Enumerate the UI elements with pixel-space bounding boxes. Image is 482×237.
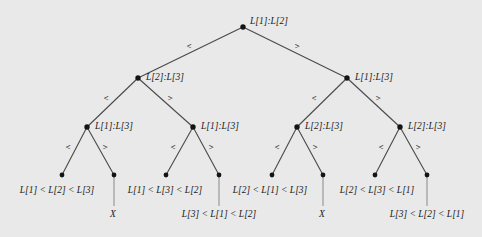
leaf-label-5: L[2] < L[1] < L[3] — [233, 186, 308, 196]
edge-label-n12-right: > — [208, 143, 213, 152]
internal-node-dot — [190, 124, 195, 129]
edge-label-n21-left: < — [274, 143, 279, 152]
leaf-node-dot — [373, 173, 378, 178]
edge-label-n12-left: < — [170, 143, 175, 152]
edge-label-l1-right: > — [167, 94, 172, 103]
tree-edge — [400, 127, 427, 175]
decision-tree-figure: L[1]:L[2] L[2]:L[3] L[1]:L[3] L[1]:L[3] … — [0, 0, 482, 237]
leaf-label-8: L[3] < L[2] < L[1] — [390, 210, 465, 220]
tree-edge — [193, 127, 219, 175]
leaf-node-dot — [217, 173, 222, 178]
tree-edge — [87, 127, 114, 175]
leaf-node-dot — [270, 173, 275, 178]
leaf-label-1: L[1] < L[2] < L[3] — [20, 186, 95, 196]
tree-edge — [297, 78, 347, 127]
tree-edge — [347, 78, 400, 127]
leaf-node-dot — [112, 173, 117, 178]
edge-label-n22-right: > — [415, 143, 420, 152]
node-label-level2-b: L[1]:L[3] — [201, 122, 239, 132]
edge-label-root-right: > — [294, 42, 299, 51]
edge-line-group — [62, 27, 427, 175]
internal-node-dot — [397, 124, 402, 129]
edge-label-r1-left: < — [311, 94, 316, 103]
internal-node-dot — [240, 24, 245, 29]
edge-label-r1-right: > — [375, 94, 380, 103]
edge-label-n21-right: > — [312, 143, 317, 152]
edge-label-n22-left: < — [378, 143, 383, 152]
internal-node-dot — [294, 124, 299, 129]
leaf-node-dot — [164, 173, 169, 178]
internal-node-dot — [84, 124, 89, 129]
edge-label-n11-right: > — [102, 143, 107, 152]
tree-edge — [138, 27, 243, 78]
tree-edge — [243, 27, 347, 78]
tree-edge — [87, 78, 138, 127]
node-label-level2-c: L[2]:L[3] — [305, 122, 343, 132]
node-dot-group — [60, 24, 430, 177]
leaf-label-4: L[3] < L[1] < L[2] — [182, 210, 257, 220]
node-label-level1-left: L[2]:L[3] — [146, 73, 184, 83]
node-label-root: L[1]:L[2] — [250, 17, 288, 27]
node-label-level2-a: L[1]:L[3] — [95, 122, 133, 132]
edge-label-l1-left: < — [103, 94, 108, 103]
leaf-node-dot — [321, 173, 326, 178]
edge-label-root-left: < — [186, 42, 191, 51]
tree-edge — [138, 78, 193, 127]
tree-edge — [297, 127, 323, 175]
tree-edges-and-nodes — [0, 0, 482, 237]
leaf-label-6-x: X — [319, 210, 325, 220]
leaf-node-dot — [425, 173, 430, 178]
leaf-label-2-x: X — [110, 210, 116, 220]
internal-node-dot — [135, 75, 140, 80]
leaf-label-3: L[1] < L[3] < L[2] — [128, 186, 203, 196]
edge-label-n11-left: < — [65, 143, 70, 152]
internal-node-dot — [344, 75, 349, 80]
leaf-node-dot — [60, 173, 65, 178]
node-label-level1-right: L[1]:L[3] — [355, 73, 393, 83]
node-label-level2-d: L[2]:L[3] — [408, 122, 446, 132]
leaf-label-7: L[2] < L[3] < L[1] — [340, 186, 415, 196]
